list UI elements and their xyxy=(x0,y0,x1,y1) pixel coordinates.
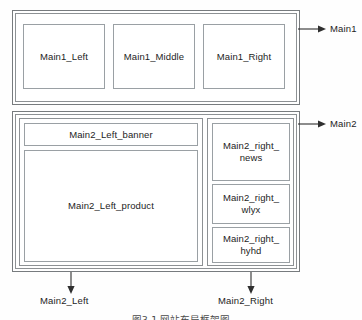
main1-callout-arrow-icon xyxy=(298,22,326,36)
main1-middle-cell: Main1_Middle xyxy=(113,24,195,89)
main2-right-news-cell: Main2_right_ news xyxy=(212,123,290,181)
main2-right-column: Main2_right_ news Main2_right_ wlyx Main… xyxy=(207,118,294,266)
figure-caption: 图3-1 网站布局框架图 xyxy=(0,312,362,320)
main2-callout-arrow-icon xyxy=(298,117,326,131)
main2-left-column: Main2_Left_banner Main2_Left_product xyxy=(19,118,203,266)
layout-framework-diagram: Main1_Left Main1_Middle Main1_Right Main… xyxy=(0,0,362,320)
main1-callout-label: Main1 xyxy=(330,23,357,34)
main1-left-cell: Main1_Left xyxy=(23,24,105,89)
main2-callout-label: Main2 xyxy=(330,118,357,129)
main2-left-product-cell: Main2_Left_product xyxy=(24,150,198,262)
main2-left-callout-label: Main2_Left xyxy=(40,295,89,306)
main2-right-wlyx-cell: Main2_right_ wlyx xyxy=(212,184,290,224)
main2-left-callout-arrow-icon xyxy=(64,272,78,294)
main2-right-hyhd-cell: Main2_right_ hyhd xyxy=(212,227,290,263)
main1-right-cell: Main1_Right xyxy=(203,24,285,89)
main2-left-banner-cell: Main2_Left_banner xyxy=(24,123,198,146)
main2-right-callout-label: Main2_Right xyxy=(218,295,273,306)
main2-container: Main2_Left_banner Main2_Left_product Mai… xyxy=(12,111,300,272)
main2-right-callout-arrow-icon xyxy=(244,272,258,294)
main1-container: Main1_Left Main1_Middle Main1_Right xyxy=(12,10,300,105)
